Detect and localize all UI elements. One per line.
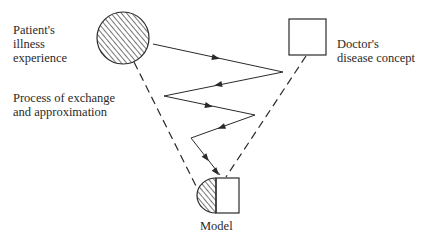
exchange-zigzag-line <box>153 44 283 175</box>
patient-illness-circle <box>97 12 149 64</box>
model-shape <box>197 178 239 213</box>
process-label: Process of exchange and approximation <box>13 91 115 119</box>
label-line: disease concept <box>337 51 415 65</box>
dashed-line-patient-to-model <box>134 62 198 190</box>
label-line: Doctor's <box>337 37 415 51</box>
label-line: experience <box>13 51 67 65</box>
arrow-icon <box>212 167 222 177</box>
label-line: Patient's <box>13 23 67 37</box>
label-line: Process of exchange <box>13 91 115 105</box>
label-line: Model <box>200 219 233 233</box>
arrowheads <box>202 54 226 177</box>
label-line: and approximation <box>13 105 115 119</box>
label-line: illness <box>13 37 67 51</box>
patient-illness-label: Patient's illness experience <box>13 23 67 65</box>
model-label: Model <box>200 219 233 233</box>
doctor-disease-label: Doctor's disease concept <box>337 37 415 65</box>
doctor-disease-square <box>289 19 326 55</box>
arrow-icon <box>216 123 226 131</box>
dashed-line-doctor-to-model <box>226 56 306 177</box>
arrow-icon <box>214 81 223 88</box>
